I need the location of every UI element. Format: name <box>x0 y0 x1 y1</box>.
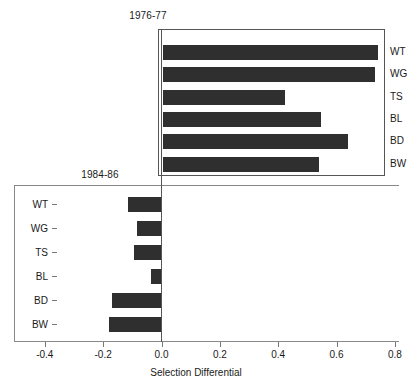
lower-panel-left-axis <box>14 185 15 342</box>
y-axis-tick <box>52 276 57 277</box>
y-axis-tick <box>52 252 57 253</box>
lower-panel-label-bd: BD <box>18 295 48 306</box>
x-axis-tick <box>220 342 221 347</box>
y-axis-tick <box>52 300 57 301</box>
lower-panel-label-ts: TS <box>18 247 48 258</box>
lower-panel-top-axis <box>14 185 399 186</box>
upper-panel-label-wg: WG <box>390 68 407 79</box>
upper-panel-label-bd: BD <box>390 135 404 146</box>
table-row <box>128 197 162 212</box>
table-row <box>151 269 161 284</box>
x-axis-tick <box>45 342 46 347</box>
x-axis-tick-label: -0.4 <box>25 349 65 360</box>
x-axis-tick <box>162 342 163 347</box>
y-axis-tick <box>52 204 57 205</box>
upper-panel-label-ts: TS <box>390 91 403 102</box>
table-row <box>134 245 162 260</box>
lower-panel-label-bl: BL <box>18 271 48 282</box>
upper-panel-title: 1976-77 <box>0 10 358 21</box>
upper-panel-bars <box>159 30 384 175</box>
x-axis-tick-label: 0.0 <box>142 349 182 360</box>
x-axis-line <box>14 341 399 342</box>
x-axis-tick-label: 0.6 <box>317 349 357 360</box>
table-row <box>163 67 376 82</box>
lower-panel-title: 1984-86 <box>0 169 200 180</box>
x-axis-label: Selection Differential <box>0 367 406 378</box>
table-row <box>163 90 286 105</box>
table-row <box>137 221 162 236</box>
selection-differential-chart: 1976-77 WTWGTSBLBDBW 1984-86 WTWGTSBLBDB… <box>0 0 420 388</box>
lower-panel-label-wg: WG <box>18 223 48 234</box>
x-axis-tick-label: 0.2 <box>200 349 240 360</box>
x-axis-tick-label: -0.2 <box>83 349 123 360</box>
upper-panel-label-bl: BL <box>390 113 402 124</box>
table-row <box>109 317 162 332</box>
x-axis-tick <box>103 342 104 347</box>
upper-panel-label-bw: BW <box>390 158 406 169</box>
table-row <box>163 45 379 60</box>
table-row <box>163 112 322 127</box>
upper-panel-plot <box>158 29 385 176</box>
y-axis-tick <box>52 228 57 229</box>
lower-panel-label-bw: BW <box>18 319 48 330</box>
y-axis-tick <box>52 324 57 325</box>
upper-panel-label-wt: WT <box>390 46 406 57</box>
table-row <box>163 134 348 149</box>
lower-panel-label-wt: WT <box>18 199 48 210</box>
x-axis-tick-label: 0.8 <box>375 349 415 360</box>
x-axis-tick <box>278 342 279 347</box>
x-axis-tick-label: 0.4 <box>258 349 298 360</box>
x-axis-tick <box>337 342 338 347</box>
table-row <box>112 293 162 308</box>
x-axis-tick <box>395 342 396 347</box>
